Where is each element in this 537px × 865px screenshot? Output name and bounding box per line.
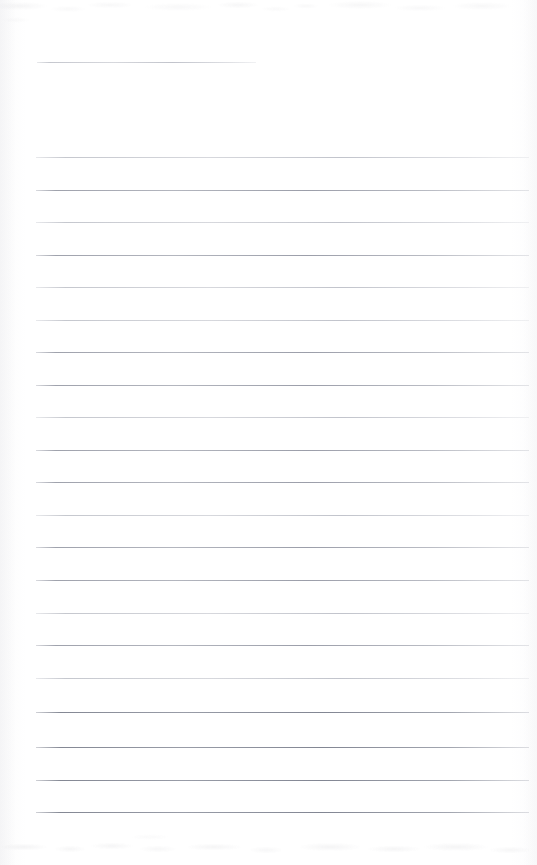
- rule-ink: [36, 417, 529, 418]
- rule-ink: [36, 385, 529, 386]
- body-rule-4: [36, 255, 529, 256]
- rule-ink: [36, 287, 529, 288]
- body-rule-16: [36, 645, 529, 646]
- scanner-noise-band-top: [0, 0, 537, 26]
- header-rule: [37, 62, 256, 63]
- scan-edge-shadow-left-icon: [0, 0, 16, 865]
- body-rule-7: [36, 352, 529, 353]
- body-rule-5: [36, 287, 529, 288]
- rule-ink: [36, 450, 529, 451]
- body-rule-6: [36, 320, 529, 321]
- rule-ink: [36, 747, 529, 748]
- rule-ink: [36, 352, 529, 353]
- rule-ink: [36, 678, 529, 679]
- body-rule-20: [36, 780, 529, 781]
- body-rule-14: [36, 580, 529, 581]
- body-rule-10: [36, 450, 529, 451]
- body-rule-12: [36, 515, 529, 516]
- body-rule-1: [36, 157, 529, 158]
- body-rule-3: [36, 222, 529, 223]
- rule-ink: [36, 645, 529, 646]
- rule-ink: [36, 255, 529, 256]
- rule-ink: [36, 482, 529, 483]
- paper-sheet: [0, 0, 537, 865]
- scanner-bleedthrough-band-bottom: [0, 825, 537, 865]
- body-rule-19: [36, 747, 529, 748]
- body-rule-8: [36, 385, 529, 386]
- body-rule-9: [36, 417, 529, 418]
- rule-ink: [36, 190, 529, 191]
- rule-ink: [36, 712, 529, 713]
- rule-ink: [36, 812, 529, 813]
- body-rule-18: [36, 712, 529, 713]
- rule-ink: [36, 515, 529, 516]
- body-rule-13: [36, 547, 529, 548]
- rule-ink: [36, 613, 529, 614]
- body-rule-2: [36, 190, 529, 191]
- rule-ink: [37, 62, 256, 63]
- body-rule-15: [36, 613, 529, 614]
- body-rule-11: [36, 482, 529, 483]
- rule-ink: [36, 580, 529, 581]
- rule-ink: [36, 222, 529, 223]
- rule-ink: [36, 780, 529, 781]
- rule-ink: [36, 547, 529, 548]
- body-rule-21: [36, 812, 529, 813]
- scanned-page: [0, 0, 537, 865]
- scan-edge-shadow-right-icon: [523, 0, 537, 865]
- rule-ink: [36, 320, 529, 321]
- rule-ink: [36, 157, 529, 158]
- body-rule-17: [36, 678, 529, 679]
